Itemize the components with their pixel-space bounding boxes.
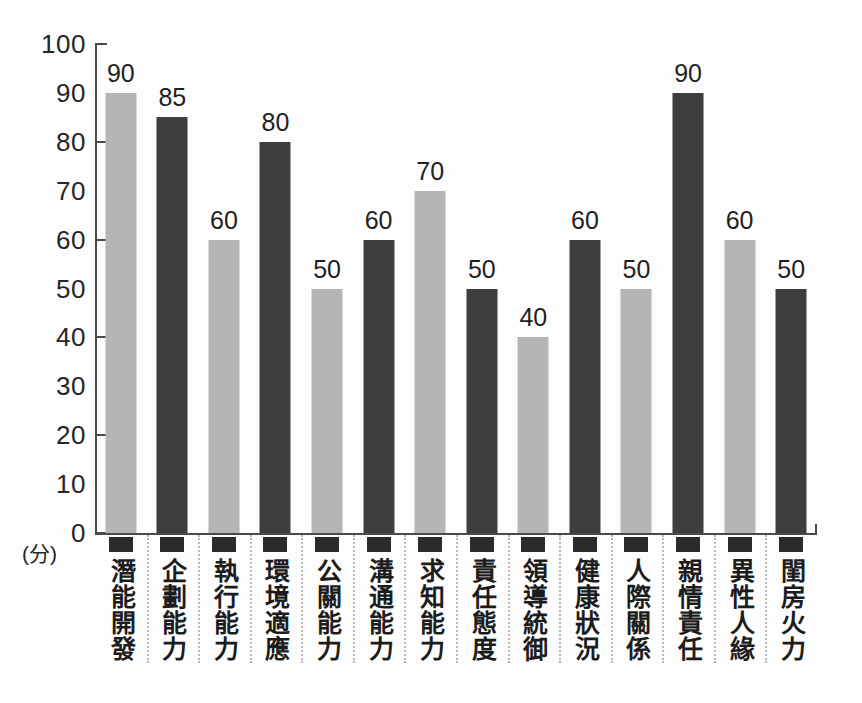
bar-slot: 40 [508, 44, 560, 533]
category-marker-icon [521, 537, 545, 552]
bar[interactable] [312, 289, 343, 534]
y-axis-tick-label: 50 [28, 276, 86, 302]
category-label: 領導統御 [508, 537, 560, 662]
category-label-text: 健康狀況 [572, 558, 598, 662]
category-label: 溝通能力 [353, 537, 405, 662]
y-axis-tick-label: 100 [28, 31, 86, 57]
bar-value-label: 85 [158, 85, 186, 110]
bar-slot: 60 [559, 44, 611, 533]
category-label-text: 潛能開發 [108, 558, 134, 662]
plot-area: 9085608050607050406050906050 [95, 44, 817, 533]
bar-slot: 80 [250, 44, 302, 533]
bar[interactable] [363, 240, 394, 533]
chart-page: 1009080706050403020100 (分) 9085608050607… [0, 0, 862, 703]
category-marker-icon [676, 537, 700, 552]
category-label-text: 溝通能力 [366, 558, 392, 662]
bar[interactable] [260, 142, 291, 533]
bar-value-label: 50 [313, 257, 341, 282]
category-label: 潛能開發 [95, 537, 147, 662]
bar-value-label: 60 [365, 208, 393, 233]
category-label-text: 親情責任 [675, 558, 701, 662]
y-axis-tick-label: 10 [28, 471, 86, 497]
category-marker-icon [367, 537, 391, 552]
category-label: 企劃能力 [147, 537, 199, 662]
category-label-text: 領導統御 [520, 558, 546, 662]
category-marker-icon [109, 537, 133, 552]
bar-slot: 60 [353, 44, 405, 533]
category-marker-icon [160, 537, 184, 552]
bar[interactable] [466, 289, 497, 534]
category-label-text: 責任態度 [469, 558, 495, 662]
category-label: 人際關係 [611, 537, 663, 662]
bar-value-label: 80 [262, 110, 290, 135]
bar[interactable] [724, 240, 755, 533]
y-axis-tick-label: 30 [28, 373, 86, 399]
category-label: 閨房火力 [765, 537, 817, 662]
category-marker-icon [573, 537, 597, 552]
bar-slot: 50 [611, 44, 663, 533]
category-marker-icon [624, 537, 648, 552]
category-marker-icon [418, 537, 442, 552]
y-axis-tick-label: 60 [28, 227, 86, 253]
category-marker-icon [263, 537, 287, 552]
bar[interactable] [105, 93, 136, 533]
category-label: 健康狀況 [559, 537, 611, 662]
bar-value-label: 50 [623, 257, 651, 282]
bar-value-label: 60 [571, 208, 599, 233]
y-axis-tick-label: 80 [28, 129, 86, 155]
bar-value-label: 90 [674, 61, 702, 86]
category-label-text: 求知能力 [417, 558, 443, 662]
y-axis-tick-label: 90 [28, 80, 86, 106]
category-marker-icon [728, 537, 752, 552]
category-label: 公關能力 [301, 537, 353, 662]
bar-slot: 60 [714, 44, 766, 533]
bar[interactable] [621, 289, 652, 534]
bar-slot: 50 [456, 44, 508, 533]
category-label-text: 異性人緣 [727, 558, 753, 662]
bar-slot: 70 [404, 44, 456, 533]
bar-value-label: 70 [416, 159, 444, 184]
category-marker-icon [779, 537, 803, 552]
bar[interactable] [157, 117, 188, 533]
bar-slot: 50 [765, 44, 817, 533]
bar[interactable] [673, 93, 704, 533]
bar[interactable] [776, 289, 807, 534]
category-label: 求知能力 [404, 537, 456, 662]
bar[interactable] [208, 240, 239, 533]
bar-slot: 85 [147, 44, 199, 533]
bar-slot: 60 [198, 44, 250, 533]
bar-slot: 90 [95, 44, 147, 533]
bar-value-label: 90 [107, 61, 135, 86]
category-marker-icon [470, 537, 494, 552]
bar[interactable] [518, 337, 549, 533]
category-label-text: 公關能力 [314, 558, 340, 662]
category-label-text: 執行能力 [211, 558, 237, 662]
category-marker-icon [212, 537, 236, 552]
bar-slot: 50 [301, 44, 353, 533]
category-label-text: 企劃能力 [159, 558, 185, 662]
y-axis-tick-label: 40 [28, 324, 86, 350]
category-marker-icon [315, 537, 339, 552]
category-label: 異性人緣 [714, 537, 766, 662]
bar-value-label: 40 [519, 305, 547, 330]
bar-value-label: 50 [777, 257, 805, 282]
y-axis-tick-label: 70 [28, 178, 86, 204]
y-axis-tick-label: 20 [28, 422, 86, 448]
bar-slot: 90 [662, 44, 714, 533]
category-label: 執行能力 [198, 537, 250, 662]
category-label-text: 人際關係 [623, 558, 649, 662]
category-labels: 潛能開發企劃能力執行能力環境適應公關能力溝通能力求知能力責任態度領導統御健康狀況… [95, 537, 817, 703]
bar-value-label: 50 [468, 257, 496, 282]
bar[interactable] [569, 240, 600, 533]
category-label: 責任態度 [456, 537, 508, 662]
bar-value-label: 60 [726, 208, 754, 233]
category-label: 環境適應 [250, 537, 302, 662]
category-label-text: 環境適應 [262, 558, 288, 662]
bar-value-label: 60 [210, 208, 238, 233]
category-label: 親情責任 [662, 537, 714, 662]
category-label-text: 閨房火力 [778, 558, 804, 662]
bar[interactable] [415, 191, 446, 533]
